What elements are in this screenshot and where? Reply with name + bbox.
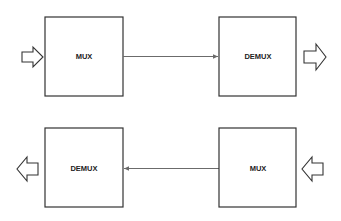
hollow-left-arrow-icon [302, 157, 323, 181]
mux-top-label: MUX [76, 52, 93, 61]
hollow-right-arrow-icon [304, 44, 326, 70]
block-mux-bottom: MUX [219, 128, 296, 207]
block-demux-bottom: DEMUX [45, 128, 123, 207]
input-arrow-bottom [302, 157, 323, 181]
hollow-right-arrow-icon [22, 47, 43, 67]
block-demux-top: DEMUX [219, 17, 296, 96]
mux-bottom-label: MUX [250, 164, 267, 173]
output-arrow-bottom [17, 157, 38, 181]
mux-demux-diagram: MUX DEMUX DEMUX MUX [0, 0, 341, 221]
input-arrow-top [22, 47, 43, 67]
demux-top-label: DEMUX [244, 52, 271, 61]
demux-bottom-label: DEMUX [70, 164, 97, 173]
hollow-left-arrow-icon [17, 157, 38, 181]
block-mux-top: MUX [45, 17, 123, 96]
output-arrow-top [304, 44, 326, 70]
